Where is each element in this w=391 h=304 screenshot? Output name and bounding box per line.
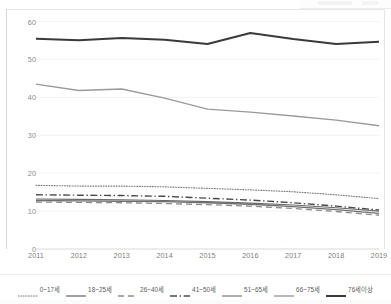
x-tick-label: 2014	[156, 251, 172, 260]
header-stub-secondary	[362, 1, 378, 5]
legend-item-0[interactable]: 0~17세	[18, 285, 60, 294]
legend-label: 51~65세	[244, 285, 268, 294]
x-tick-label: 2017	[285, 251, 301, 260]
chart-svg	[36, 14, 379, 249]
series-line-5	[36, 84, 379, 126]
x-tick-label: 2013	[114, 251, 130, 260]
legend-swatch-icon	[118, 286, 138, 294]
x-tick-label: 2019	[371, 251, 387, 260]
x-tick-label: 2015	[199, 251, 215, 260]
legend-swatch-icon	[170, 286, 190, 294]
y-tick-label: 60	[28, 17, 36, 26]
legend-swatch-icon	[18, 286, 38, 294]
x-tick-label: 2018	[328, 251, 344, 260]
legend-swatch-icon	[326, 286, 346, 294]
legend-label: 66~75세	[296, 285, 320, 294]
legend-label: 26~40세	[140, 285, 164, 294]
legend-item-1[interactable]: 18~25세	[66, 285, 112, 294]
legend-item-4[interactable]: 51~65세	[222, 285, 268, 294]
x-tick-label: 2012	[71, 251, 87, 260]
legend-label: 18~25세	[88, 285, 112, 294]
y-axis-labels: 0102030405060	[6, 9, 38, 249]
legend-label: 41~50세	[192, 285, 216, 294]
chart-plot-area	[36, 14, 379, 249]
legend-item-6[interactable]: 76세이상	[326, 285, 373, 294]
series-lines	[36, 33, 379, 215]
legend-swatch-icon	[274, 286, 294, 294]
y-tick-label: 40	[28, 93, 36, 102]
x-axis-labels: 201120122013201420152016201720182019	[36, 251, 379, 265]
legend-item-5[interactable]: 66~75세	[274, 285, 320, 294]
x-tick-label: 2016	[242, 251, 258, 260]
legend-item-2[interactable]: 26~40세	[118, 285, 164, 294]
x-tick-label: 2011	[28, 251, 44, 260]
chart-root: 0102030405060 20112012201320142015201620…	[0, 0, 391, 304]
gridlines	[36, 22, 379, 249]
legend-swatch-icon	[222, 286, 242, 294]
series-line-0	[36, 185, 379, 198]
y-tick-label: 50	[28, 55, 36, 64]
y-tick-label: 30	[28, 131, 36, 140]
legend-swatch-icon	[66, 286, 86, 294]
legend-label: 0~17세	[40, 285, 60, 294]
header-stub-primary	[318, 1, 352, 5]
clipped-header-strip	[300, 0, 391, 9]
series-line-6	[36, 33, 379, 44]
bottom-edge	[0, 300, 391, 304]
y-tick-label: 20	[28, 169, 36, 178]
legend-label: 76세이상	[348, 285, 373, 294]
legend-item-3[interactable]: 41~50세	[170, 285, 216, 294]
y-tick-label: 10	[28, 207, 36, 216]
